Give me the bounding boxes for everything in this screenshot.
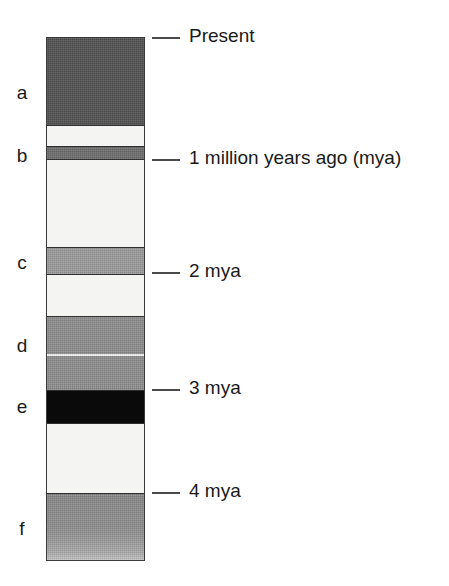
layer-band-gap-2 xyxy=(47,160,144,247)
tick-label-3-mya: 3 mya xyxy=(189,377,241,399)
layer-letter-f: f xyxy=(2,519,42,538)
layer-band-gap-3 xyxy=(47,275,144,316)
layer-band-d xyxy=(47,316,144,391)
layer-letter-e: e xyxy=(2,397,42,416)
tick-mark-2-mya-icon xyxy=(152,272,180,274)
layer-band-a xyxy=(47,38,144,126)
tick-mark-3-mya-icon xyxy=(152,389,180,391)
layer-band-gap-1 xyxy=(47,126,144,146)
layer-letter-c: c xyxy=(2,253,42,272)
layer-band-f xyxy=(47,493,144,561)
layer-letter-b: b xyxy=(2,146,42,165)
layer-band-gap-4 xyxy=(47,424,144,493)
stratigraphic-column xyxy=(46,37,145,561)
layer-band-c xyxy=(47,247,144,275)
tick-label-present: Present xyxy=(189,25,254,47)
stratigraphic-column-figure: a b c d e f Present 1 million years ago … xyxy=(0,0,449,586)
layer-letter-a: a xyxy=(2,83,42,102)
layer-band-e xyxy=(47,391,144,424)
tick-mark-4-mya-icon xyxy=(152,492,180,494)
tick-mark-1-mya-icon xyxy=(152,159,180,161)
layer-letter-d: d xyxy=(2,336,42,355)
tick-mark-present-icon xyxy=(152,37,180,39)
layer-d-parting-line xyxy=(47,354,144,356)
layer-band-b xyxy=(47,146,144,160)
tick-label-2-mya: 2 mya xyxy=(189,260,241,282)
tick-label-1-mya: 1 million years ago (mya) xyxy=(189,147,401,169)
tick-label-4-mya: 4 mya xyxy=(189,480,241,502)
layer-letter-column: a b c d e f xyxy=(0,0,42,586)
time-scale-annotations: Present 1 million years ago (mya) 2 mya … xyxy=(145,0,449,586)
